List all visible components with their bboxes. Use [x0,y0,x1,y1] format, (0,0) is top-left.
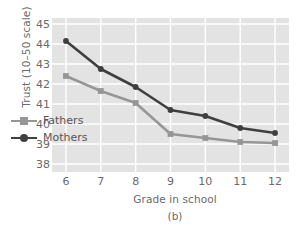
legend-item-fathers: Fathers [11,112,121,129]
legend-marker-square-icon [20,117,28,125]
legend-marker-circle-icon [20,134,28,142]
panel-label: (b) [50,210,300,222]
x-tick-label: 6 [54,176,78,187]
legend-swatch-fathers [11,115,37,127]
x-tick-label: 12 [263,176,287,187]
chart-legend: FathersMothers [11,112,121,146]
legend-label: Fathers [43,115,83,127]
legend-item-mothers: Mothers [11,129,121,146]
x-tick-label: 7 [89,176,113,187]
x-axis-title: Grade in school [50,193,300,205]
x-tick-label: 11 [228,176,252,187]
legend-label: Mothers [43,132,88,144]
x-tick-label: 8 [124,176,148,187]
x-tick-label: 9 [159,176,183,187]
x-tick-label: 10 [193,176,217,187]
chart-figure: Trust (10–50 scale) 3839404142434445 678… [0,0,305,230]
legend-swatch-mothers [11,132,37,144]
